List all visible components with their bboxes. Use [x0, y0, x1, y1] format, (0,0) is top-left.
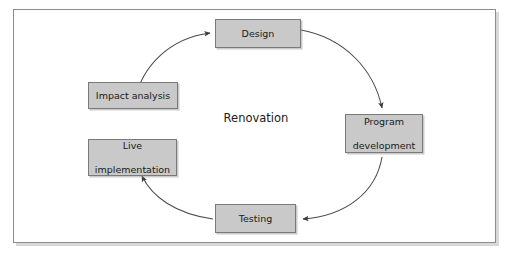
node-live-implementation-label: Liveimplementation	[89, 140, 176, 176]
node-program-development-line2: development	[350, 140, 419, 152]
node-program-development-line1: Program	[350, 116, 419, 128]
node-design-label: Design	[239, 28, 278, 40]
node-testing-label: Testing	[236, 213, 275, 225]
node-live-implementation: Liveimplementation	[88, 139, 177, 176]
node-impact-analysis: Impact analysis	[88, 82, 178, 109]
node-testing: Testing	[215, 204, 296, 233]
node-design: Design	[215, 19, 301, 48]
node-program-development: Programdevelopment	[345, 114, 423, 153]
node-program-development-label: Programdevelopment	[347, 116, 422, 152]
arrow-testing-to-live	[142, 176, 213, 219]
node-live-implementation-line1: Live	[92, 140, 173, 152]
arrow-design-to-program	[301, 30, 382, 108]
cycle-center-label: Renovation	[196, 111, 316, 125]
figure-container: Design Programdevelopment Testing Liveim…	[0, 0, 509, 258]
node-impact-analysis-label: Impact analysis	[93, 90, 173, 102]
node-live-implementation-line2: implementation	[92, 164, 173, 176]
arrow-program-to-testing	[303, 157, 382, 219]
